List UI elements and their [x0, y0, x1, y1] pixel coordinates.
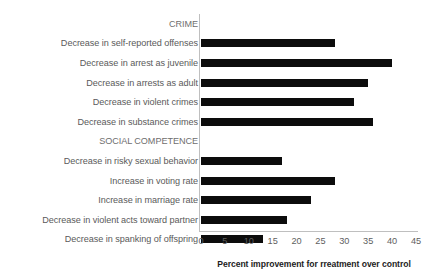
category-label: Decrease in arrest as juvenile	[0, 58, 198, 68]
group-header-label: SOCIAL COMPETENCE	[0, 136, 198, 146]
category-label: Decrease in self-reported offenses	[0, 38, 198, 48]
chart-group-header-row: CRIME	[0, 14, 443, 34]
bar	[201, 216, 287, 224]
chart-bar-row: Decrease in violent acts toward partner	[0, 210, 443, 230]
category-label: Decrease in substance crimes	[0, 117, 198, 127]
bar	[201, 59, 392, 67]
x-axis-tick-label: 45	[404, 235, 428, 247]
x-axis-tick-label: 0	[189, 235, 213, 247]
chart-bar-row: Decrease in substance crimes	[0, 112, 443, 132]
x-axis-tick-label: 40	[380, 235, 404, 247]
category-axis-line	[199, 14, 200, 231]
chart-bar-row: Decrease in arrests as adult	[0, 73, 443, 93]
x-axis-tick-label: 20	[285, 235, 309, 247]
bar	[201, 98, 354, 106]
bar	[201, 39, 335, 47]
chart-bar-row: Increase in voting rate	[0, 171, 443, 191]
category-label: Increase in voting rate	[0, 176, 198, 186]
category-label: Decrease in violent crimes	[0, 97, 198, 107]
chart-bar-row: Decrease in arrest as juvenile	[0, 53, 443, 73]
chart-bar-row: Decrease in violent crimes	[0, 92, 443, 112]
category-label: Decrease in risky sexual behavior	[0, 156, 198, 166]
plot-area: CRIMEDecrease in self-reported offensesD…	[0, 14, 443, 229]
x-axis-tick-label: 15	[261, 235, 285, 247]
bar	[201, 196, 311, 204]
bar	[201, 118, 373, 126]
chart-bar-row: Decrease in risky sexual behavior	[0, 151, 443, 171]
x-axis-tick-label: 30	[332, 235, 356, 247]
x-axis-tick-label: 35	[356, 235, 380, 247]
category-label: Decrease in violent acts toward partner	[0, 215, 198, 225]
bar	[201, 79, 368, 87]
x-axis-tick-labels: 051015202530354045	[0, 235, 443, 249]
x-axis-title: Percent improvement for rreatment over c…	[199, 258, 429, 270]
category-label: Increase in marriage rate	[0, 195, 198, 205]
x-axis-tick-label: 25	[308, 235, 332, 247]
bar-chart: CRIMEDecrease in self-reported offensesD…	[0, 0, 443, 279]
group-header-label: CRIME	[0, 19, 198, 29]
x-axis-tick-label: 10	[237, 235, 261, 247]
chart-group-header-row: SOCIAL COMPETENCE	[0, 132, 443, 152]
chart-bar-row: Increase in marriage rate	[0, 190, 443, 210]
category-label: Decrease in arrests as adult	[0, 78, 198, 88]
bar	[201, 177, 335, 185]
x-axis-tick-label: 5	[213, 235, 237, 247]
bar	[201, 157, 282, 165]
value-axis-line	[199, 231, 418, 232]
chart-bar-row: Decrease in self-reported offenses	[0, 34, 443, 54]
